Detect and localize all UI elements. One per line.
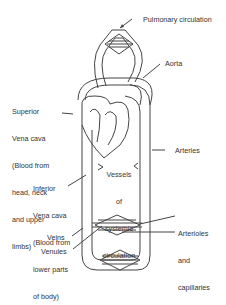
label-vessels-systemic: Vessels of systemic circulation	[100, 152, 138, 269]
label-venules: Venules	[41, 247, 67, 256]
label-aorta: Aorta	[165, 59, 182, 68]
label-arterioles-capillaries: Arterioles and capillaries	[178, 211, 210, 301]
label-arteries: Arteries	[175, 146, 200, 155]
label-veins: Veins	[47, 233, 65, 242]
heart	[82, 96, 129, 158]
label-pulmonary-circulation: Pulmonary circulation	[143, 15, 212, 24]
